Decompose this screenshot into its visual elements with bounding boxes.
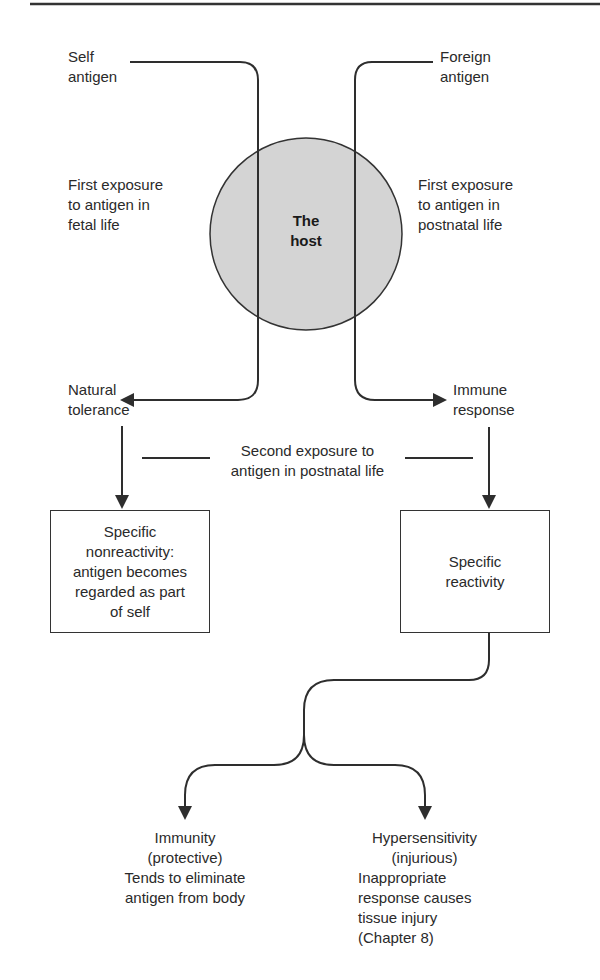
specific-nonreactivity-label: Specific nonreactivity: antigen becomes …: [73, 522, 187, 622]
immune-response-label: Immune response: [453, 380, 515, 420]
hypersensitivity-arrow: [304, 735, 425, 818]
specific-nonreactivity-box: Specific nonreactivity: antigen becomes …: [50, 510, 210, 633]
foreign-antigen-label: Foreign antigen: [440, 47, 491, 87]
diagram-connectors: [0, 0, 600, 980]
second-exposure-label: Second exposure to antigen in postnatal …: [205, 441, 410, 481]
immunity-arrow: [185, 735, 304, 818]
fetal-exposure-label: First exposure to antigen in fetal life: [68, 175, 163, 235]
specific-reactivity-label: Specific reactivity: [445, 552, 504, 592]
host-label: The host: [276, 211, 336, 251]
natural-tolerance-label: Natural tolerance: [68, 380, 130, 420]
self-antigen-label: Self antigen: [68, 47, 117, 87]
specific-reactivity-box: Specific reactivity: [400, 510, 550, 633]
reactivity-branch-stem: [304, 632, 489, 735]
postnatal-exposure-label: First exposure to antigen in postnatal l…: [418, 175, 513, 235]
hypersensitivity-description: Inappropriate response causes tissue inj…: [358, 868, 471, 948]
hypersensitivity-title: Hypersensitivity (injurious): [356, 828, 493, 868]
immunity-label: Immunity (protective) Tends to eliminate…: [105, 828, 265, 908]
